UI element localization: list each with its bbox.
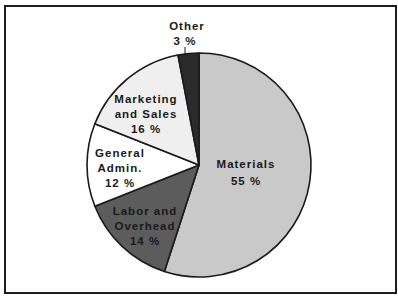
label-other: Other 3 % bbox=[169, 20, 205, 47]
labor-pct: 14 % bbox=[130, 235, 160, 247]
materials-label: Materials bbox=[217, 158, 276, 170]
general-label-line1: General bbox=[95, 147, 145, 159]
other-pct: 3 % bbox=[174, 35, 197, 47]
materials-pct: 55 % bbox=[231, 175, 261, 187]
pie-chart: Materials 55 % Labor and Overhead 14 % G… bbox=[0, 0, 398, 298]
general-label-line2: Admin. bbox=[98, 162, 143, 174]
marketing-label-line2: and Sales bbox=[115, 108, 178, 120]
marketing-pct: 16 % bbox=[131, 123, 161, 135]
general-pct: 12 % bbox=[105, 177, 135, 189]
other-label: Other bbox=[169, 20, 205, 32]
labor-label-line1: Labor and bbox=[113, 205, 178, 217]
labor-label-line2: Overhead bbox=[114, 220, 175, 232]
marketing-label-line1: Marketing bbox=[114, 93, 177, 105]
